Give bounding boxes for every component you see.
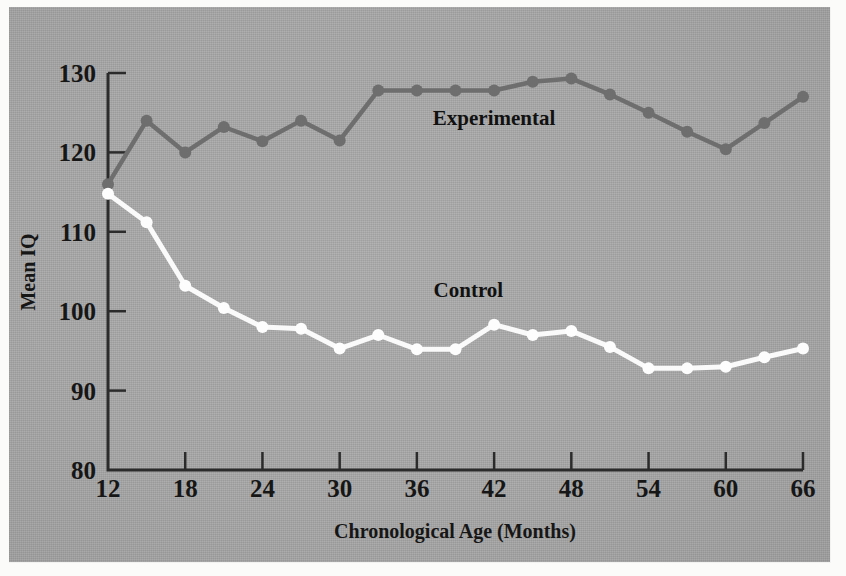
data-point-experimental (334, 134, 346, 146)
x-axis-ticks (185, 452, 803, 470)
data-point-control (179, 280, 191, 292)
data-point-experimental (450, 84, 462, 96)
data-point-experimental (179, 146, 191, 158)
data-point-experimental (527, 76, 539, 88)
data-point-experimental (681, 126, 693, 138)
data-point-control (797, 343, 809, 355)
y-tick-label: 90 (71, 378, 96, 405)
y-tick-label: 120 (59, 139, 97, 166)
x-tick-label: 36 (404, 475, 429, 502)
data-point-experimental (256, 135, 268, 147)
y-axis-ticks (108, 73, 126, 391)
y-tick-label: 100 (59, 298, 97, 325)
figure-page: 8090100110120130 12182430364248546066 Ex… (0, 0, 846, 576)
data-point-control (604, 341, 616, 353)
data-point-control (527, 329, 539, 341)
line-chart: 8090100110120130 12182430364248546066 Ex… (0, 0, 846, 576)
data-point-control (218, 302, 230, 314)
data-point-control (372, 329, 384, 341)
data-point-control (102, 188, 114, 200)
y-axis-tick-labels: 8090100110120130 (59, 60, 97, 484)
data-point-experimental (295, 115, 307, 127)
x-tick-label: 48 (559, 475, 584, 502)
data-point-control (681, 362, 693, 374)
data-point-experimental (141, 115, 153, 127)
x-tick-label: 42 (482, 475, 507, 502)
series-label-control: Control (434, 278, 504, 302)
data-point-control (256, 321, 268, 333)
data-point-experimental (720, 143, 732, 155)
data-point-control (141, 216, 153, 228)
x-tick-label: 18 (173, 475, 198, 502)
data-point-control (450, 343, 462, 355)
x-tick-label: 66 (791, 475, 816, 502)
data-point-control (295, 323, 307, 335)
x-axis-tick-labels: 12182430364248546066 (96, 475, 816, 502)
data-point-experimental (411, 84, 423, 96)
data-point-control (488, 319, 500, 331)
data-point-control (643, 362, 655, 374)
data-point-experimental (643, 107, 655, 119)
data-point-experimental (758, 117, 770, 129)
y-tick-label: 130 (59, 60, 97, 87)
data-point-control (334, 343, 346, 355)
data-point-control (565, 325, 577, 337)
data-point-experimental (797, 91, 809, 103)
x-tick-label: 54 (636, 475, 662, 502)
data-point-control (411, 343, 423, 355)
x-tick-label: 24 (250, 475, 276, 502)
data-point-control (720, 361, 732, 373)
data-point-experimental (604, 88, 616, 100)
data-point-experimental (372, 84, 384, 96)
x-tick-label: 30 (327, 475, 352, 502)
data-point-experimental (218, 121, 230, 133)
y-tick-label: 110 (60, 219, 96, 246)
series-label-experimental: Experimental (433, 106, 556, 130)
series-annotations: ExperimentalControl (433, 106, 556, 302)
y-tick-label: 80 (71, 457, 96, 484)
data-point-experimental (488, 84, 500, 96)
y-axis-title: Mean IQ (17, 233, 39, 310)
x-axis-title: Chronological Age (Months) (334, 520, 576, 543)
data-point-control (758, 351, 770, 363)
x-tick-label: 12 (96, 475, 121, 502)
x-tick-label: 60 (713, 475, 738, 502)
data-point-experimental (565, 73, 577, 85)
